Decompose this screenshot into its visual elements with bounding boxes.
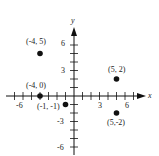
- y-tick-label-6: 6: [61, 40, 65, 48]
- point-label-neg1-neg1: (-1, -1): [37, 103, 60, 111]
- point-label-5-neg2: (5,-2): [107, 119, 125, 127]
- y-tick-label-neg3: -3: [57, 118, 64, 126]
- y-tick-label-neg6: -6: [57, 144, 64, 152]
- x-tick-label-3: 3: [98, 102, 102, 110]
- data-point: [114, 76, 120, 82]
- coordinate-plane: [0, 0, 159, 156]
- point-label-5-2: (5, 2): [108, 66, 125, 74]
- point-label-neg4-5: (-4, 5): [26, 38, 46, 46]
- x-axis-label: x: [148, 92, 152, 100]
- y-axis-arrow-icon: [71, 27, 77, 36]
- data-point: [114, 110, 120, 116]
- y-axis-label: y: [71, 17, 75, 25]
- data-point: [37, 93, 43, 99]
- x-tick-label-neg6: -6: [16, 102, 23, 110]
- point-label-neg4-0: (-4, 0): [26, 82, 46, 90]
- data-point: [37, 51, 43, 57]
- data-point: [63, 102, 69, 108]
- x-axis-arrow-icon: [137, 93, 146, 99]
- y-tick-label-3: 3: [61, 67, 65, 75]
- x-tick-label-6: 6: [125, 102, 129, 110]
